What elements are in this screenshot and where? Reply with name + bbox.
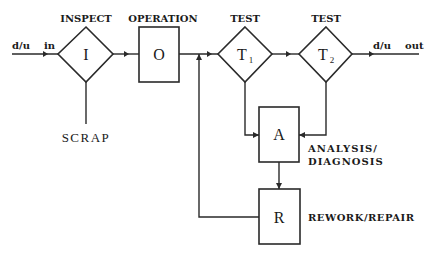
input-flow-label: d/u [12, 40, 30, 51]
test2-title: TEST [311, 13, 341, 24]
process-flow-diagram: d/u in I INSPECT SCRAP O OPERATION T 1 T… [0, 0, 430, 260]
analysis-symbol: A [273, 126, 285, 143]
analysis-title-line1: ANALYSIS/ [307, 143, 378, 154]
test1-to-test2-edge [272, 51, 299, 57]
analysis-to-repair-edge [276, 162, 282, 189]
inspect-node: I [58, 27, 113, 82]
test1-node: T 1 [218, 27, 272, 82]
inspect-symbol: I [83, 46, 88, 63]
test1-to-analysis-edge [245, 82, 259, 138]
output-label: out [405, 40, 424, 51]
test2-node: T 2 [299, 27, 352, 82]
operation-title: OPERATION [128, 13, 197, 24]
repair-node: R [259, 189, 300, 244]
operation-symbol: O [153, 46, 165, 63]
test1-symbol: T [237, 46, 247, 63]
scrap-label: SCRAP [62, 130, 111, 145]
analysis-title-line2: DIAGNOSIS [308, 156, 384, 167]
inspect-title: INSPECT [60, 13, 112, 24]
output-edge [352, 51, 419, 57]
input-label: in [44, 40, 56, 51]
test1-title: TEST [230, 13, 260, 24]
inspect-to-operation-edge [113, 51, 139, 57]
test1-subscript: 1 [249, 55, 254, 65]
output-flow-label: d/u [373, 40, 391, 51]
input-edge [12, 51, 58, 57]
test2-subscript: 2 [330, 55, 335, 65]
operation-node: O [139, 27, 179, 82]
repair-symbol: R [274, 209, 285, 226]
test2-to-analysis-edge [299, 82, 326, 138]
repair-title: REWORK/REPAIR [308, 212, 415, 223]
analysis-node: A [259, 107, 299, 162]
test2-symbol: T [318, 46, 328, 63]
